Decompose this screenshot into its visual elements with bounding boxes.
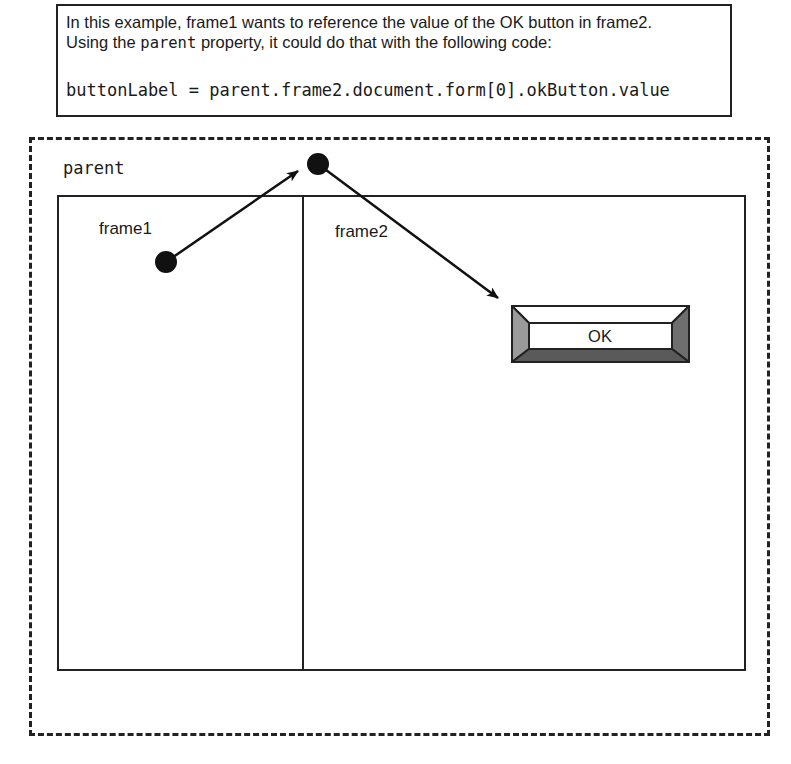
reference-arrows bbox=[0, 0, 791, 764]
parent-node-icon bbox=[307, 153, 329, 175]
frame1-node-icon bbox=[155, 251, 177, 273]
arrow-parent-to-ok-button bbox=[318, 164, 498, 298]
arrow-frame1-to-parent bbox=[166, 171, 298, 262]
